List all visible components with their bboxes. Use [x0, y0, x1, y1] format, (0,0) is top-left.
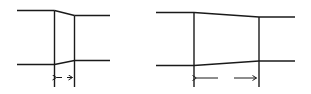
- pipe-transition-diagram: [0, 0, 311, 94]
- diagram-canvas: [0, 0, 311, 94]
- long-transition-figure: [156, 13, 295, 88]
- transition-bottom-taper: [194, 61, 259, 66]
- transition-top-taper: [55, 11, 75, 16]
- transition-bottom-taper: [55, 61, 75, 65]
- short-transition-figure: [17, 11, 110, 88]
- transition-top-taper: [194, 13, 259, 18]
